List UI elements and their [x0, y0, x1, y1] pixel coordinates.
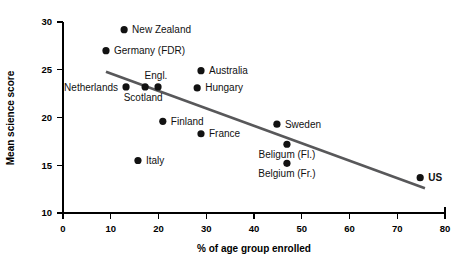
x-tick-label: 30 — [201, 223, 212, 234]
y-axis-ticks: 1015202530 — [41, 16, 63, 218]
x-tick-label: 60 — [344, 223, 355, 234]
data-point-marker — [159, 118, 166, 125]
data-point-marker — [154, 83, 161, 90]
y-tick-label: 15 — [41, 160, 52, 171]
data-point-marker — [121, 26, 128, 33]
data-point-label: US — [428, 172, 442, 183]
data-point-label: Germany (FDR) — [114, 45, 185, 56]
data-point-label: New Zealand — [132, 24, 191, 35]
chart-figure: 1015202530 01020304050607080 % of age gr… — [0, 0, 465, 261]
data-point-marker — [102, 47, 109, 54]
data-point-label: Scotland — [124, 92, 163, 103]
y-axis-title: Mean science score — [5, 70, 16, 165]
data-point-label: Italy — [146, 155, 164, 166]
scatter-plot-canvas: 1015202530 01020304050607080 % of age gr… — [0, 0, 465, 261]
data-point-marker — [283, 160, 290, 167]
y-tick-label: 30 — [41, 16, 52, 27]
y-tick-label: 25 — [41, 64, 52, 75]
data-point-label: Finland — [171, 116, 204, 127]
x-axis-title: % of age group enrolled — [197, 243, 311, 254]
data-point-marker — [197, 67, 204, 74]
data-point-marker — [417, 174, 424, 181]
data-point-marker — [142, 83, 149, 90]
data-point-marker — [194, 84, 201, 91]
x-tick-label: 10 — [105, 223, 116, 234]
data-point-labels-group: New ZealandGermany (FDR)NetherlandsScotl… — [64, 24, 442, 183]
data-point-marker — [273, 121, 280, 128]
data-point-label: France — [209, 128, 241, 139]
x-tick-label: 0 — [60, 223, 65, 234]
data-point-marker — [197, 130, 204, 137]
x-axis-ticks: 01020304050607080 — [60, 213, 450, 234]
data-point-label: Engl. — [145, 70, 168, 81]
y-tick-label: 20 — [41, 112, 52, 123]
data-point-label: Netherlands — [64, 82, 118, 93]
data-point-label: Hungary — [205, 82, 243, 93]
data-point-marker — [134, 157, 141, 164]
x-tick-label: 50 — [296, 223, 307, 234]
data-point-label: Beligum (Fl.) — [259, 149, 316, 160]
x-tick-label: 70 — [392, 223, 403, 234]
x-tick-label: 80 — [440, 223, 451, 234]
data-point-label: Sweden — [285, 119, 321, 130]
x-tick-label: 40 — [249, 223, 260, 234]
data-point-label: Belgium (Fr.) — [258, 168, 315, 179]
data-point-marker — [283, 141, 290, 148]
data-point-label: Australia — [209, 65, 248, 76]
data-point-marker — [122, 83, 129, 90]
y-tick-label: 10 — [41, 207, 52, 218]
x-tick-label: 20 — [153, 223, 164, 234]
